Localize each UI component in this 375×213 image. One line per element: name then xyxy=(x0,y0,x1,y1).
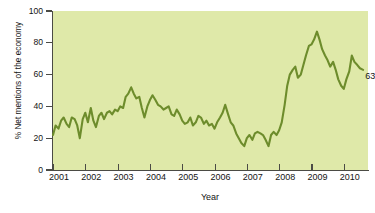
y-tick-label-20: 20 xyxy=(3,133,43,143)
y-tick-mark-40 xyxy=(46,106,52,107)
y-tick-mark-60 xyxy=(46,74,52,75)
x-axis-title: Year xyxy=(52,192,368,202)
y-tick-label-40: 40 xyxy=(3,101,43,111)
y-tick-label-0: 0 xyxy=(3,165,43,175)
y-tick-label-60: 60 xyxy=(3,69,43,79)
data-series-line xyxy=(53,11,368,170)
y-tick-mark-100 xyxy=(46,10,52,11)
y-tick-mark-80 xyxy=(46,42,52,43)
y-tick-mark-0 xyxy=(46,169,52,170)
economy-mentions-line xyxy=(53,32,363,146)
y-tick-label-100: 100 xyxy=(3,6,43,16)
y-tick-label-80: 80 xyxy=(3,37,43,47)
endpoint-value-label: 63 xyxy=(365,71,375,81)
x-tick-label-2010: 2010 xyxy=(330,172,370,182)
y-tick-mark-20 xyxy=(46,138,52,139)
